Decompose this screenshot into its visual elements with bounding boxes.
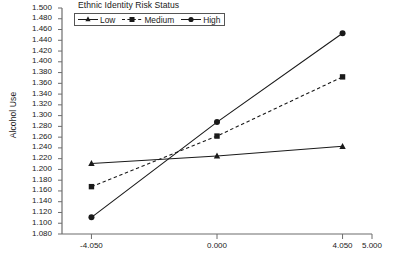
data-point-medium xyxy=(89,184,94,189)
series-line-medium xyxy=(91,77,342,187)
data-point-medium xyxy=(214,133,219,138)
y-tick-label: 1.260 xyxy=(22,132,52,141)
y-tick-label: 1.240 xyxy=(22,142,52,151)
data-point-high xyxy=(214,119,220,125)
x-tick-label: 0.000 xyxy=(194,241,240,250)
x-tick-label: 5.000 xyxy=(349,241,394,250)
y-tick-label: 1.120 xyxy=(22,207,52,216)
y-tick-label: 1.340 xyxy=(22,89,52,98)
y-tick-label: 1.160 xyxy=(22,185,52,194)
y-tick-label: 1.100 xyxy=(22,218,52,227)
y-tick-label: 1.200 xyxy=(22,164,52,173)
y-tick-label: 1.360 xyxy=(22,78,52,87)
y-tick-label: 1.380 xyxy=(22,67,52,76)
plot-area: 1.5001.4801.4601.4401.4201.4001.3801.360… xyxy=(0,0,394,270)
y-tick-label: 1.460 xyxy=(22,24,52,33)
x-tick-label: -4.050 xyxy=(68,241,114,250)
y-tick-label: 1.220 xyxy=(22,153,52,162)
data-point-high xyxy=(340,30,346,36)
y-tick-label: 1.480 xyxy=(22,13,52,22)
data-point-medium xyxy=(340,74,345,79)
y-tick-label: 1.400 xyxy=(22,56,52,65)
data-point-low xyxy=(339,143,345,149)
y-tick-label: 1.320 xyxy=(22,99,52,108)
series-line-high xyxy=(91,33,342,217)
y-tick-label: 1.300 xyxy=(22,110,52,119)
y-tick-label: 1.280 xyxy=(22,121,52,130)
y-tick-label: 1.440 xyxy=(22,35,52,44)
chart-container: Ethnic Identity Risk Status Alcohol Use … xyxy=(0,0,394,270)
plot-svg xyxy=(0,0,394,270)
data-point-high xyxy=(88,214,94,220)
y-tick-label: 1.180 xyxy=(22,175,52,184)
y-tick-label: 1.140 xyxy=(22,196,52,205)
y-tick-label: 1.500 xyxy=(22,3,52,12)
y-tick-label: 1.420 xyxy=(22,46,52,55)
y-tick-label: 1.080 xyxy=(22,229,52,238)
